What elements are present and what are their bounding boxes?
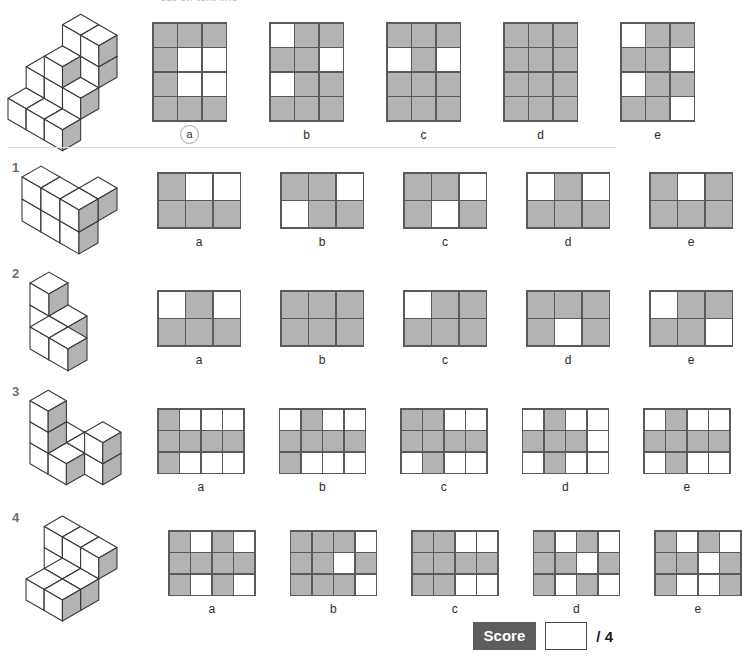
grid-cell [178, 24, 201, 47]
option-grid-e[interactable] [620, 22, 695, 122]
grid-cell [313, 553, 333, 573]
option-grid-b[interactable] [280, 290, 364, 347]
answer-option-a[interactable]: a [157, 172, 241, 248]
option-grid-e[interactable] [649, 290, 733, 347]
grid-cell [432, 201, 458, 227]
option-label-a[interactable]: a [208, 603, 215, 615]
answer-option-a[interactable]: a [157, 408, 245, 493]
option-grid-b[interactable] [269, 22, 344, 122]
option-grid-b[interactable] [279, 408, 367, 474]
answer-option-e[interactable]: e [643, 408, 731, 493]
option-grid-c[interactable] [400, 408, 488, 474]
option-label-c[interactable]: c [452, 603, 458, 615]
option-grid-c[interactable] [403, 290, 487, 347]
grid-cell [337, 319, 363, 345]
answer-option-c[interactable]: c [411, 530, 499, 615]
grid-cell [191, 553, 211, 573]
answer-option-d[interactable]: d [526, 172, 610, 248]
answer-option-a[interactable]: a [157, 290, 241, 366]
option-label-d[interactable]: d [562, 481, 569, 493]
answer-option-c[interactable]: c [403, 172, 487, 248]
option-label-e[interactable]: e [688, 354, 695, 366]
answer-option-c[interactable]: c [403, 290, 487, 366]
grid-cell [280, 410, 300, 430]
option-grid-a[interactable] [157, 290, 241, 347]
row-divider [8, 147, 616, 148]
grid-cell [666, 431, 686, 451]
option-label-b[interactable]: b [319, 481, 326, 493]
grid-cell [528, 201, 554, 227]
option-grid-a[interactable] [152, 22, 227, 122]
answer-option-d[interactable]: d [522, 408, 610, 493]
answer-option-e[interactable]: e [620, 22, 695, 144]
answer-option-e[interactable]: e [654, 530, 742, 615]
grid-cell [295, 24, 318, 47]
option-grid-a[interactable] [168, 530, 256, 596]
option-grid-d[interactable] [526, 290, 610, 347]
option-label-a[interactable]: a [196, 354, 203, 366]
grid-cell [356, 575, 376, 595]
option-label-c[interactable]: c [441, 481, 447, 493]
grid-cell [688, 453, 708, 473]
option-label-d[interactable]: d [537, 129, 544, 141]
option-label-e[interactable]: e [683, 481, 690, 493]
answer-option-c[interactable]: c [386, 22, 461, 144]
option-grid-a[interactable] [157, 408, 245, 474]
option-grid-e[interactable] [643, 408, 731, 474]
option-grid-c[interactable] [411, 530, 499, 596]
option-grid-e[interactable] [654, 530, 742, 596]
grid-cell [432, 174, 458, 200]
answer-option-a[interactable]: a [152, 22, 227, 144]
answer-option-b[interactable]: b [280, 290, 364, 366]
option-grid-d[interactable] [526, 172, 610, 229]
option-grid-e[interactable] [649, 172, 733, 229]
option-label-d[interactable]: d [573, 603, 580, 615]
answer-option-d[interactable]: d [503, 22, 578, 144]
answer-option-b[interactable]: b [279, 408, 367, 493]
grid-cell [466, 453, 486, 473]
option-label-d[interactable]: d [565, 354, 572, 366]
option-grid-d[interactable] [503, 22, 578, 122]
answer-option-c[interactable]: c [400, 408, 488, 493]
grid-cell [186, 174, 212, 200]
grid-cell [282, 174, 308, 200]
option-grid-d[interactable] [533, 530, 621, 596]
grid-cell [291, 553, 311, 573]
grid-cell [646, 97, 669, 120]
option-grid-b[interactable] [290, 530, 378, 596]
option-label-b[interactable]: b [319, 354, 326, 366]
answer-option-a[interactable]: a [168, 530, 256, 615]
option-label-c[interactable]: c [442, 236, 448, 248]
option-label-b[interactable]: b [330, 603, 337, 615]
answer-option-e[interactable]: e [649, 172, 733, 248]
grid-cell [413, 532, 433, 552]
option-label-a[interactable]: a [197, 481, 204, 493]
option-label-a[interactable]: a [180, 125, 199, 144]
option-label-b[interactable]: b [303, 129, 310, 141]
option-label-e[interactable]: e [694, 603, 701, 615]
option-label-c[interactable]: c [442, 354, 448, 366]
option-label-e[interactable]: e [688, 236, 695, 248]
option-label-a[interactable]: a [196, 236, 203, 248]
score-input[interactable] [545, 622, 587, 650]
option-grid-d[interactable] [522, 408, 610, 474]
option-grid-c[interactable] [403, 172, 487, 229]
option-grid-c[interactable] [386, 22, 461, 122]
option-grid-a[interactable] [157, 172, 241, 229]
answer-option-b[interactable]: b [290, 530, 378, 615]
grid-cell [688, 410, 708, 430]
option-grid-b[interactable] [280, 172, 364, 229]
grid-cell [405, 174, 431, 200]
grid-cell [178, 97, 201, 120]
option-label-c[interactable]: c [421, 129, 427, 141]
grid-cell [599, 532, 619, 552]
option-label-d[interactable]: d [565, 236, 572, 248]
answer-option-d[interactable]: d [526, 290, 610, 366]
answer-option-e[interactable]: e [649, 290, 733, 366]
option-label-e[interactable]: e [654, 129, 661, 141]
answer-option-b[interactable]: b [269, 22, 344, 144]
grid-cell [656, 553, 676, 573]
answer-option-b[interactable]: b [280, 172, 364, 248]
answer-option-d[interactable]: d [533, 530, 621, 615]
option-label-b[interactable]: b [319, 236, 326, 248]
